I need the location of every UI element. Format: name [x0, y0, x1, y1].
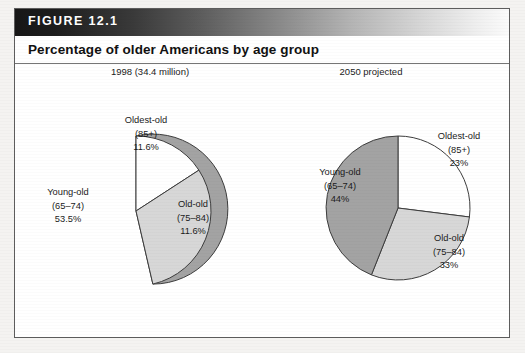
slice-label-name: Young-old	[295, 166, 385, 180]
slice-label-range: (75–84)	[150, 212, 236, 226]
slice-label-pct: 11.6%	[150, 225, 236, 239]
slice-label-range: (85+)	[416, 144, 502, 158]
slice-label-name: Oldest-old	[416, 130, 502, 144]
slice-label-oldest-old-1998: Oldest-old (85+) 11.6%	[103, 114, 189, 155]
slice-label-old-old-2050: Old-old (75–84) 33%	[406, 232, 492, 273]
charts-area: 1998 (34.4 million) Oldest-old (85+) 11.…	[15, 64, 509, 338]
slice-label-name: Oldest-old	[103, 114, 189, 128]
slice-label-range: (65–74)	[23, 200, 113, 214]
slice-label-name: Young-old	[23, 186, 113, 200]
slice-label-pct: 44%	[295, 193, 385, 207]
slice-label-pct: 23%	[416, 157, 502, 171]
figure-number-label: FIGURE 12.1	[28, 14, 118, 28]
slice-label-pct: 11.6%	[103, 141, 189, 155]
figure-title: Percentage of older Americans by age gro…	[28, 42, 319, 57]
slice-label-young-old-2050: Young-old (65–74) 44%	[295, 166, 385, 207]
slice-label-name: Old-old	[150, 198, 236, 212]
slice-label-young-old-1998: Young-old (65–74) 53.5%	[23, 186, 113, 227]
slice-label-range: (85+)	[103, 128, 189, 142]
slice-label-range: (65–74)	[295, 180, 385, 194]
slice-label-oldest-old-2050: Oldest-old (85+) 23%	[416, 130, 502, 171]
slice-label-name: Old-old	[406, 232, 492, 246]
slice-label-range: (75–84)	[406, 246, 492, 260]
slice-label-pct: 33%	[406, 259, 492, 273]
slice-label-pct: 53.5%	[23, 213, 113, 227]
slice-label-old-old-1998: Old-old (75–84) 11.6%	[150, 198, 236, 239]
figure-root: FIGURE 12.1 Percentage of older American…	[0, 0, 525, 353]
